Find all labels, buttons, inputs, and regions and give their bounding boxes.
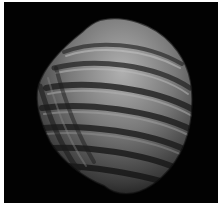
shell-body [37, 18, 194, 194]
shell-illustration [4, 2, 218, 203]
fossil-shell-photo [4, 2, 218, 203]
